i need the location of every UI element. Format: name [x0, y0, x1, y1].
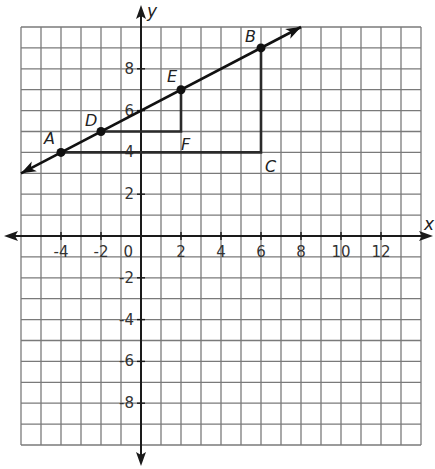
origin-label: 0	[123, 243, 133, 261]
axes	[4, 5, 433, 466]
x-axis-title: x	[423, 214, 435, 234]
y-tick-label: -8	[119, 394, 134, 412]
point-label-c: C	[265, 157, 277, 176]
x-tick-label: 12	[371, 243, 390, 261]
y-axis-title: y	[146, 1, 158, 21]
point-label-d: D	[85, 111, 97, 130]
x-tick-label: 10	[331, 243, 350, 261]
y-tick-label: -2	[119, 269, 134, 287]
point-label-a: A	[43, 129, 55, 148]
point-label-e: E	[167, 67, 178, 86]
point-b-marker	[257, 43, 266, 52]
point-d-marker	[97, 127, 106, 136]
x-tick-label: -4	[54, 243, 69, 261]
x-tick-label: 8	[296, 243, 306, 261]
y-tick-label: 8	[124, 60, 134, 78]
x-tick-label: 6	[256, 243, 266, 261]
point-e-marker	[177, 85, 186, 94]
y-tick-label: -6	[119, 352, 134, 370]
x-tick-label: 4	[216, 243, 226, 261]
coordinate-plane: -4-2246810128642-2-4-6-80 ADEBFC x y	[0, 0, 435, 469]
point-a-marker	[57, 148, 66, 157]
x-tick-label: 2	[176, 243, 186, 261]
y-tick-label: 2	[124, 185, 134, 203]
x-tick-label: -2	[94, 243, 109, 261]
y-tick-label: -4	[119, 311, 134, 329]
point-label-f: F	[181, 135, 191, 154]
point-label-b: B	[245, 27, 256, 46]
